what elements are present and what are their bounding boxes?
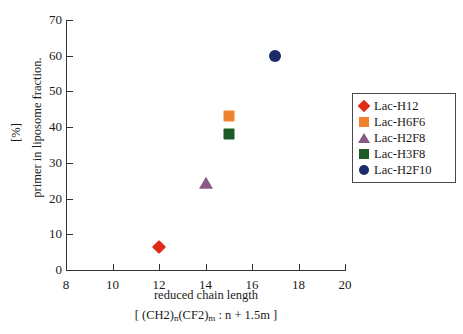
y-tick: 40 bbox=[67, 127, 73, 128]
y-tick-label: 10 bbox=[34, 225, 62, 242]
legend-item-lac-h3f8[interactable]: Lac-H3F8 bbox=[357, 146, 452, 162]
x-tick bbox=[66, 264, 67, 270]
y-tick: 70 bbox=[67, 20, 73, 21]
legend-label: Lac-H3F8 bbox=[374, 147, 425, 161]
x-tick bbox=[159, 264, 160, 270]
legend-marker-square-icon bbox=[357, 115, 370, 129]
y-tick: 20 bbox=[67, 199, 73, 200]
legend-label: Lac-H2F8 bbox=[374, 131, 425, 145]
data-point-lac-h2f10 bbox=[269, 50, 281, 62]
legend-label: Lac-H6F6 bbox=[374, 115, 425, 129]
data-point-lac-h3f8 bbox=[223, 129, 234, 140]
x-tick bbox=[206, 264, 207, 270]
legend-marker-circle-icon bbox=[357, 163, 370, 177]
legend-marker-triangle-icon bbox=[357, 131, 370, 145]
y-tick-label: 70 bbox=[34, 11, 62, 28]
x-axis-subtitle: [ (CH2)n(CF2)m : n + 1.5m ] bbox=[46, 308, 366, 323]
data-point-lac-h6f6 bbox=[223, 111, 234, 122]
legend-label: Lac-H2F10 bbox=[374, 163, 432, 177]
legend-item-lac-h12[interactable]: Lac-H12 bbox=[357, 98, 452, 114]
plot-area: 010203040506070 8101214161820 bbox=[66, 20, 345, 270]
data-point-lac-h2f8 bbox=[199, 177, 213, 189]
legend-marker-diamond-icon bbox=[357, 99, 370, 113]
scatter-chart-figure: primer in liposome fraction. [%] 0102030… bbox=[0, 0, 463, 334]
y-tick-label: 30 bbox=[34, 154, 62, 171]
legend-item-lac-h2f10[interactable]: Lac-H2F10 bbox=[357, 162, 452, 178]
legend-marker-square-icon bbox=[357, 147, 370, 161]
y-tick-label: 60 bbox=[34, 47, 62, 64]
x-axis-line bbox=[66, 270, 346, 271]
y-tick: 10 bbox=[67, 234, 73, 235]
y-axis-unit: [%] bbox=[9, 73, 24, 193]
x-tick bbox=[113, 264, 114, 270]
data-point-lac-h12 bbox=[152, 240, 166, 254]
y-axis-title-group: primer in liposome fraction. [%] bbox=[2, 0, 42, 290]
y-tick: 30 bbox=[67, 163, 73, 164]
x-axis-title: reduced chain length bbox=[66, 288, 346, 303]
legend-label: Lac-H12 bbox=[374, 99, 418, 113]
y-tick: 50 bbox=[67, 91, 73, 92]
x-tick bbox=[345, 264, 346, 270]
y-axis-line bbox=[66, 20, 67, 270]
x-tick bbox=[299, 264, 300, 270]
legend-item-lac-h6f6[interactable]: Lac-H6F6 bbox=[357, 114, 452, 130]
y-tick: 0 bbox=[67, 270, 73, 271]
x-tick bbox=[252, 264, 253, 270]
y-tick-label: 20 bbox=[34, 190, 62, 207]
y-tick: 60 bbox=[67, 56, 73, 57]
legend-item-lac-h2f8[interactable]: Lac-H2F8 bbox=[357, 130, 452, 146]
y-tick-label: 40 bbox=[34, 118, 62, 135]
legend: Lac-H12Lac-H6F6Lac-H2F8Lac-H3F8Lac-H2F10 bbox=[352, 93, 456, 183]
y-tick-label: 50 bbox=[34, 82, 62, 99]
